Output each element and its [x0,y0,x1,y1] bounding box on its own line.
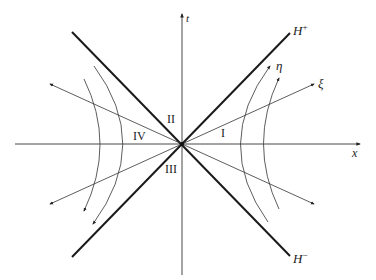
region-IV-label: IV [133,129,146,143]
xi-ray-right-up [182,84,314,144]
eta-hyperbola-right-outer [264,78,280,209]
rindler-diagram: t x H+ H− η ξ I II III IV [0,0,376,280]
x-axis-label: x [351,146,358,160]
eta-hyperbola-left-outer [84,79,100,211]
region-I-label: I [221,126,225,140]
horizon-future-label: H+ [292,22,307,38]
xi-label: ξ [318,76,324,91]
origin-point [180,142,184,146]
xi-ray-left-up [50,84,182,144]
eta-hyperbola-left-inner [93,66,123,224]
xi-ray-right-down [182,144,314,204]
diagram-canvas: t x H+ H− η ξ I II III IV [0,0,376,280]
xi-ray-left-down [50,144,182,204]
horizon-past-label: H− [292,250,307,266]
eta-label: η [276,58,282,73]
region-II-label: II [167,112,175,126]
region-III-label: III [165,162,177,176]
t-axis-label: t [186,12,190,24]
